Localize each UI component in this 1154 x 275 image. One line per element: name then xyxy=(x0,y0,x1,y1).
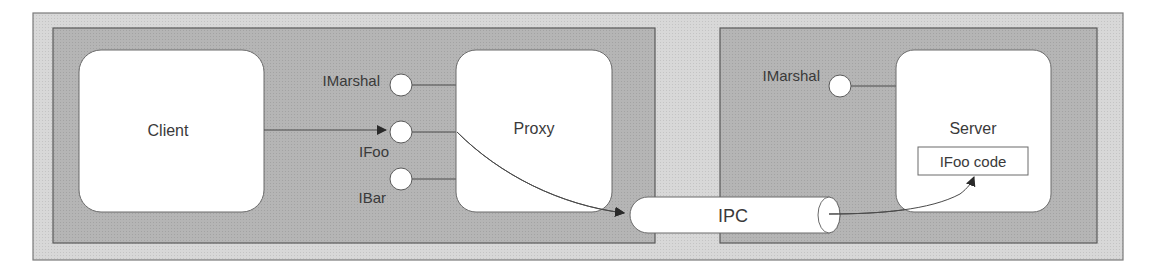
server-imarshal-label: IMarshal xyxy=(762,67,820,84)
client-label: Client xyxy=(148,122,189,139)
imarshal-lollipop-icon xyxy=(390,74,412,96)
proxy-label: Proxy xyxy=(514,120,555,137)
ifoo-lollipop-icon xyxy=(390,121,412,143)
server-box: Server IFoo code xyxy=(896,50,1051,212)
client-box: Client xyxy=(79,50,264,212)
imarshal-label: IMarshal xyxy=(322,72,380,89)
ibar-label: IBar xyxy=(358,189,386,206)
marshaling-diagram: Client IMarshal IFoo IBar Proxy IPC IMar… xyxy=(0,0,1154,275)
ibar-lollipop-icon xyxy=(390,168,412,190)
ipc-label: IPC xyxy=(718,206,748,226)
ipc-channel: IPC xyxy=(630,197,840,233)
server-label: Server xyxy=(949,120,997,137)
server-imarshal-lollipop-icon xyxy=(829,75,851,97)
ifoo-label: IFoo xyxy=(359,143,389,160)
ifoo-code-label: IFoo code xyxy=(940,153,1007,170)
proxy-box: Proxy xyxy=(456,50,612,212)
